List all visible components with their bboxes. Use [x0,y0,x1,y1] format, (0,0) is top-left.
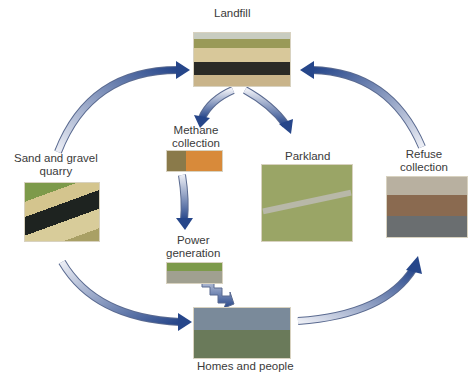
refuse-label-line2: collection [400,161,448,173]
quarry-label: Sand and gravelquarry [14,152,98,178]
arrow-homes-to-refuse [298,256,422,321]
power-label-line2: generation [166,247,220,259]
homes-label: Homes and people [197,360,294,373]
landfill-image [193,32,291,87]
power-label-line1: Power [177,234,210,246]
quarry-image [24,182,100,242]
landfill-label: Landfill [214,7,250,20]
methane-label-line2: collection [172,137,220,149]
arrow-landfill-to-parkland [245,90,293,134]
refuse-image [386,176,468,238]
power-image [166,262,223,284]
arrow-methane-to-power [176,175,193,230]
arrow-landfill-to-methane [194,90,233,128]
quarry-label-line2: quarry [40,165,73,177]
methane-label: Methanecollection [172,124,220,150]
power-label: Powergeneration [166,234,220,260]
refuse-label: Refusecollection [400,148,448,174]
methane-image [166,150,223,172]
parkland-label: Parkland [285,150,330,163]
arrow-quarry-to-landfill [58,61,190,152]
methane-label-line1: Methane [174,124,219,136]
arrow-refuse-to-landfill [300,61,422,147]
parkland-image [261,164,353,242]
quarry-label-line1: Sand and gravel [14,152,98,164]
homes-image [193,307,291,359]
refuse-label-line1: Refuse [406,148,442,160]
park-path [262,190,351,215]
